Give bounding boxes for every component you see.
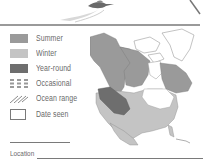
bird-illustration bbox=[0, 0, 203, 24]
legend-item-date-seen: Date seen bbox=[10, 108, 76, 120]
legend-label: Ocean range bbox=[36, 93, 77, 103]
date-seen-checkbox[interactable] bbox=[10, 109, 26, 120]
ocean-range-hatch-icon bbox=[10, 94, 28, 103]
range-map bbox=[90, 27, 203, 147]
legend-label: Winter bbox=[36, 48, 57, 58]
legend-label: Summer bbox=[36, 33, 63, 43]
legend-item-winter: Winter bbox=[10, 47, 61, 59]
legend-item-summer: Summer bbox=[10, 32, 69, 44]
location-field: Location bbox=[10, 149, 40, 158]
legend-label: Date seen bbox=[36, 109, 69, 119]
divider-rule bbox=[0, 24, 200, 26]
legend-label: Year-round bbox=[36, 63, 71, 73]
location-entry-line[interactable] bbox=[37, 158, 203, 159]
legend-item-occasional: Occasional bbox=[10, 77, 79, 89]
legend-item-ocean-range: Ocean range bbox=[10, 92, 86, 104]
legend-item-year-round: Year-round bbox=[10, 62, 79, 74]
winter-swatch bbox=[10, 49, 28, 58]
date-seen-entry-line[interactable] bbox=[10, 142, 70, 143]
legend-label: Occasional bbox=[36, 78, 71, 88]
year-round-swatch bbox=[10, 64, 28, 73]
location-label: Location bbox=[10, 149, 34, 158]
occasional-swatch-icon bbox=[10, 79, 28, 88]
summer-swatch bbox=[10, 34, 28, 43]
